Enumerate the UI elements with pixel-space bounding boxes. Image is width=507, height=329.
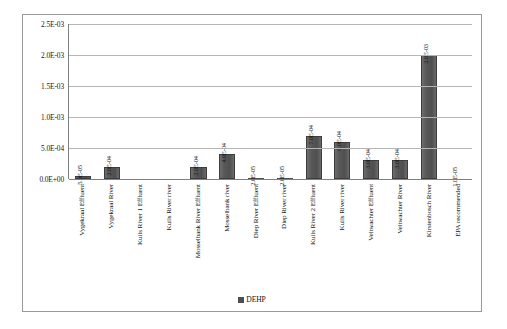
bar-column bbox=[155, 24, 184, 179]
x-axis-label-slot: Kuils River river bbox=[155, 181, 184, 291]
x-axis-category-label: Kirstenbosch River bbox=[425, 184, 433, 237]
bar-column: 2.0E-04 bbox=[98, 24, 127, 179]
bar: 2.0E-04 bbox=[104, 167, 120, 179]
bar: 3.0E-04 bbox=[392, 160, 408, 179]
x-axis-category-label: Veltwachter River bbox=[396, 184, 404, 234]
x-axis-label-slot: Kuils River 2 Effluent bbox=[299, 181, 328, 291]
gridline bbox=[69, 148, 472, 149]
bar-data-label: 7.0E-04 bbox=[307, 125, 314, 145]
x-axis-label-slot: EPA recommended bbox=[443, 181, 472, 291]
bar-column: 2.0E-04 bbox=[184, 24, 213, 179]
x-axis-label-slot: Kuils River river bbox=[328, 181, 357, 291]
x-axis-category-labels: Vygekraal EffluentVygekraal RiverKuils R… bbox=[68, 181, 472, 291]
x-axis-label-slot: Vygekraal Effluent bbox=[68, 181, 97, 291]
bar-column: 2.0E-05 bbox=[270, 24, 299, 179]
bar-column: 4.0E-04 bbox=[213, 24, 242, 179]
bar-data-label: 2.0E-04 bbox=[105, 156, 112, 176]
bar-column: 5.0E-05 bbox=[69, 24, 98, 179]
bar: 3.0E-04 bbox=[363, 160, 379, 179]
y-axis-tick-label: 5.0E-04 bbox=[41, 144, 64, 153]
y-axis-tick-label: 1.0E-03 bbox=[41, 113, 64, 122]
bar-column: 1.0E-05 bbox=[443, 24, 472, 179]
x-axis-category-label: Vygekraal River bbox=[107, 184, 115, 229]
bar-column: 3.0E-04 bbox=[357, 24, 386, 179]
gridline bbox=[69, 86, 472, 87]
x-axis-category-label: Diep River river bbox=[280, 184, 288, 229]
bar-data-label: 2.0E-03 bbox=[422, 44, 429, 64]
x-axis-label-slot: Diep River river bbox=[270, 181, 299, 291]
bar-column: 6.0E-04 bbox=[328, 24, 357, 179]
chart-legend: DEHP bbox=[23, 295, 481, 304]
gridline bbox=[69, 117, 472, 118]
bar-column: 2.0E-05 bbox=[242, 24, 271, 179]
bar-data-label: 2.0E-04 bbox=[192, 156, 199, 176]
x-axis-label-slot: Kuils River 1 Effluent bbox=[126, 181, 155, 291]
bar: 2.0E-04 bbox=[190, 167, 206, 179]
x-axis-category-label: Kuils River river bbox=[165, 184, 173, 230]
legend-label-dehp: DEHP bbox=[246, 295, 265, 304]
bar: 7.0E-04 bbox=[306, 136, 322, 179]
y-axis-tick-label: 2.5E-03 bbox=[41, 20, 64, 29]
x-axis-category-label: Kuils River 2 Effluent bbox=[309, 184, 317, 245]
x-axis-label-slot: Veltwachter River bbox=[385, 181, 414, 291]
y-axis-tick-label: 0.0E+00 bbox=[39, 175, 64, 184]
x-axis-label-slot: Kirstenbosch River bbox=[414, 181, 443, 291]
plot-area: 5.0E-052.0E-042.0E-044.0E-042.0E-052.0E-… bbox=[68, 24, 472, 179]
gridline bbox=[69, 24, 472, 25]
x-axis-label-slot: Vygekraal River bbox=[97, 181, 126, 291]
bar-data-label: 3.0E-04 bbox=[393, 150, 400, 170]
x-axis-label-slot: Diep River Effluent bbox=[241, 181, 270, 291]
bar-data-label: 3.0E-04 bbox=[364, 150, 371, 170]
x-axis-category-label: Kuils River 1 Effluent bbox=[136, 184, 144, 245]
x-axis-category-label: Vygekraal Effluent bbox=[78, 184, 86, 236]
x-axis-category-label: Veltwachter Effluent bbox=[367, 184, 375, 241]
bar-column: 7.0E-04 bbox=[299, 24, 328, 179]
y-axis-tick-label: 1.5E-03 bbox=[41, 82, 64, 91]
x-axis-label-slot: Mosselbank river bbox=[212, 181, 241, 291]
gridline bbox=[69, 179, 472, 180]
gridline bbox=[69, 55, 472, 56]
x-axis-label-slot: Mosselbank River Effluent bbox=[183, 181, 212, 291]
x-axis-category-label: Mosselbank river bbox=[223, 184, 231, 232]
x-axis-label-slot: Veltwachter Effluent bbox=[357, 181, 386, 291]
bar-data-label: 4.0E-04 bbox=[220, 143, 227, 163]
y-axis-tick-label: 2.0E-03 bbox=[41, 51, 64, 60]
x-axis-category-label: Mosselbank River Effluent bbox=[194, 184, 202, 258]
legend-swatch-dehp bbox=[238, 297, 244, 303]
x-axis-category-label: EPA recommended bbox=[454, 184, 462, 237]
bar-column: 2.0E-03 bbox=[414, 24, 443, 179]
bar: 4.0E-04 bbox=[219, 154, 235, 179]
bar-column: 3.0E-04 bbox=[386, 24, 415, 179]
bar-column bbox=[127, 24, 156, 179]
bar-series-dehp: 5.0E-052.0E-042.0E-044.0E-042.0E-052.0E-… bbox=[69, 24, 472, 179]
chart-frame: 5.0E-052.0E-042.0E-044.0E-042.0E-052.0E-… bbox=[22, 14, 482, 312]
x-axis-category-label: Kuils River river bbox=[338, 184, 346, 230]
x-axis-category-label: Diep River Effluent bbox=[252, 184, 260, 238]
